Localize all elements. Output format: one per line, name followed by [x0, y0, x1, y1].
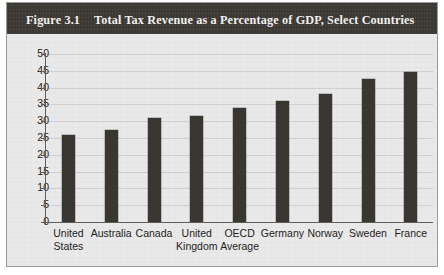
bar [362, 79, 375, 222]
x-axis-label: France [383, 227, 438, 240]
x-axis-label-line: France [383, 227, 438, 240]
chart-plot-area: 05101520253035404550 UnitedStatesAustral… [7, 34, 438, 267]
bar [276, 101, 289, 222]
y-gridline [46, 104, 433, 105]
figure-number: Figure 3.1 [26, 13, 80, 27]
x-axis-line [45, 222, 433, 223]
x-axis-label-line: Average [212, 240, 267, 253]
bar [233, 108, 246, 222]
bar [62, 135, 75, 222]
x-axis-label-line: States [41, 240, 96, 253]
bar [319, 94, 332, 222]
y-axis-line [45, 53, 46, 224]
figure-title-text: Total Tax Revenue as a Percentage of GDP… [94, 13, 414, 27]
figure-title-bar: Figure 3.1Total Tax Revenue as a Percent… [7, 3, 438, 34]
figure-panel: Figure 3.1Total Tax Revenue as a Percent… [6, 2, 438, 267]
y-gridline [46, 54, 433, 55]
bar [404, 72, 417, 222]
y-gridline [46, 71, 433, 72]
y-gridline [46, 88, 433, 89]
figure-title: Figure 3.1Total Tax Revenue as a Percent… [26, 10, 414, 28]
bar [105, 130, 118, 222]
bar [148, 118, 161, 222]
bar [190, 116, 203, 222]
